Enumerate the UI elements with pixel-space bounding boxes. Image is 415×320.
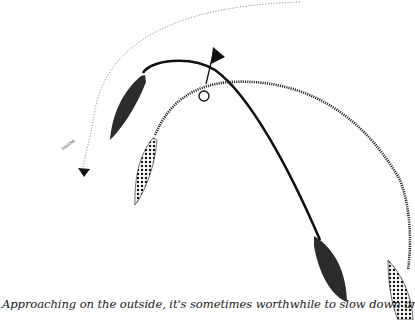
flag-icon (211, 47, 225, 64)
boat-dotted-trail (388, 260, 413, 320)
course-arrowhead-icon (78, 168, 90, 177)
boat-solid-trail (314, 236, 347, 302)
figure-caption: Approaching on the outside, it's sometim… (2, 297, 415, 311)
windward-mark-icon (199, 91, 209, 101)
boat-dotted-lead (135, 138, 157, 205)
solid-boat-track (143, 61, 320, 240)
boat-solid-lead (110, 75, 146, 140)
course-line (83, 2, 300, 168)
sailing-rounding-diagram (0, 0, 415, 320)
dotted-boat-track (155, 82, 410, 270)
